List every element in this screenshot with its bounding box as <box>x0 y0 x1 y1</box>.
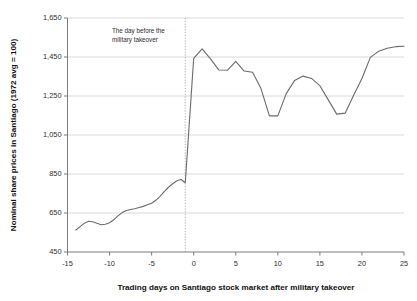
annotation-line-2: military takeover <box>112 36 158 44</box>
chart-screenshot: 4506508501,0501,2501,4501,650 -15-10-505… <box>0 0 417 301</box>
x-tick-label: -15 <box>62 259 73 268</box>
x-tick-label: 25 <box>400 259 408 268</box>
x-tick-label: 15 <box>316 259 324 268</box>
line-chart: 4506508501,0501,2501,4501,650 -15-10-505… <box>0 0 417 301</box>
gridlines-group <box>68 18 405 213</box>
y-tick-label: 1,450 <box>43 52 62 61</box>
y-tick-label: 1,050 <box>43 130 62 139</box>
annotation-line-1: The day before the <box>112 27 165 35</box>
x-tick-label: -10 <box>104 259 115 268</box>
x-tick-label: 10 <box>274 259 282 268</box>
y-axis-title: Nominal share prices in Santiago (1972 a… <box>9 39 18 232</box>
y-tick-label: 850 <box>49 169 61 178</box>
x-tick-label: 0 <box>192 259 196 268</box>
x-tick-label: -5 <box>148 259 155 268</box>
x-tick-labels: -15-10-50510152025 <box>62 252 408 268</box>
y-axis-group: 4506508501,0501,2501,4501,650 <box>43 13 68 256</box>
x-axis-title: Trading days on Santiago stock market af… <box>117 283 355 292</box>
x-tick-label: 20 <box>358 259 366 268</box>
y-tick-label: 450 <box>49 247 61 256</box>
y-tick-label: 1,250 <box>43 91 62 100</box>
share-price-line <box>76 46 404 230</box>
y-tick-label: 650 <box>49 208 61 217</box>
x-tick-label: 5 <box>234 259 238 268</box>
y-tick-label: 1,650 <box>43 13 62 22</box>
y-tick-labels: 4506508501,0501,2501,4501,650 <box>43 13 68 256</box>
x-axis-group: -15-10-50510152025 <box>62 252 408 268</box>
